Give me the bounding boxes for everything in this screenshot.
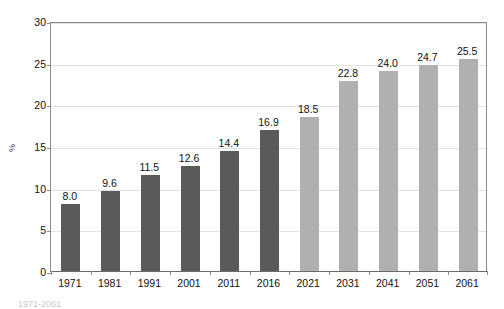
bar-value-label: 16.9 [249, 117, 289, 128]
y-axis-title: % [5, 138, 19, 158]
figure-caption: 1971-2061 [18, 299, 61, 309]
y-axis-tick-label: 0 [20, 267, 46, 277]
bar-value-label: 24.0 [368, 58, 408, 69]
y-axis-tick-label: 30 [20, 17, 46, 27]
y-axis-tick-label: 10 [20, 184, 46, 194]
x-axis-tick-mark [51, 271, 52, 275]
y-axis-tick-label: 5 [20, 225, 46, 235]
bar-value-label: 22.8 [328, 68, 368, 79]
x-axis-tick-mark [130, 271, 131, 275]
y-axis-tick-label: 25 [20, 59, 46, 69]
y-axis-tick-mark [47, 106, 51, 107]
bar-chart: % 051015202530 8.09.611.512.614.416.918.… [0, 0, 504, 309]
x-axis-tick-label: 2061 [445, 278, 489, 289]
x-axis-tick-mark [409, 271, 410, 275]
bar-value-label: 12.6 [169, 153, 209, 164]
bar [260, 130, 279, 271]
bar [419, 65, 438, 271]
x-axis-tick-label: 1981 [88, 278, 132, 289]
bar-value-label: 25.5 [447, 46, 487, 57]
bar [101, 191, 120, 271]
bar-value-label: 9.6 [90, 178, 130, 189]
bar [181, 166, 200, 271]
y-axis-tick-label: 15 [20, 142, 46, 152]
x-axis-tick-mark [369, 271, 370, 275]
bar [459, 59, 478, 272]
bar-value-label: 24.7 [407, 52, 447, 63]
x-axis-tick-mark [289, 271, 290, 275]
bar-value-label: 14.4 [209, 138, 249, 149]
x-axis-tick-label: 1991 [127, 278, 171, 289]
x-axis-tick-label: 2016 [247, 278, 291, 289]
x-axis-tick-mark [210, 271, 211, 275]
x-axis-tick-label: 2001 [167, 278, 211, 289]
bar [379, 71, 398, 271]
y-axis-tick-mark [47, 231, 51, 232]
gridline [51, 23, 486, 24]
bar [220, 151, 239, 271]
x-axis-tick-mark [448, 271, 449, 275]
x-axis-tick-mark [250, 271, 251, 275]
x-axis-tick-mark [329, 271, 330, 275]
bar [339, 81, 358, 271]
x-axis-tick-label: 2051 [405, 278, 449, 289]
bar [300, 117, 319, 271]
x-axis-tick-label: 2021 [286, 278, 330, 289]
x-axis-tick-mark [91, 271, 92, 275]
bar [61, 204, 80, 271]
x-axis-tick-label: 1971 [48, 278, 92, 289]
x-axis-tick-label: 2031 [326, 278, 370, 289]
bar-value-label: 11.5 [129, 162, 169, 173]
y-axis-tick-mark [47, 23, 51, 24]
bar-value-label: 18.5 [288, 104, 328, 115]
x-axis-tick-mark [487, 271, 488, 275]
x-axis-tick-label: 2011 [207, 278, 251, 289]
y-axis-tick-mark [47, 148, 51, 149]
bar-value-label: 8.0 [50, 191, 90, 202]
x-axis-tick-label: 2041 [366, 278, 410, 289]
y-axis-tick-label: 20 [20, 100, 46, 110]
x-axis-tick-mark [170, 271, 171, 275]
y-axis-tick-mark [47, 65, 51, 66]
bar [141, 175, 160, 271]
